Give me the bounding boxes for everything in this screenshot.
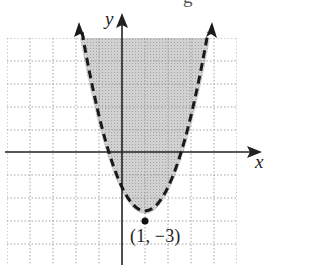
y-axis-label: y <box>105 8 113 30</box>
clipped-heading-text: g <box>183 0 193 8</box>
left-curve-arrow-icon <box>74 22 85 38</box>
right-curve-arrow-icon <box>206 22 217 38</box>
vertex-label: (1, −3) <box>130 226 181 247</box>
vertex-point <box>142 218 149 225</box>
x-axis-label: x <box>255 151 263 173</box>
